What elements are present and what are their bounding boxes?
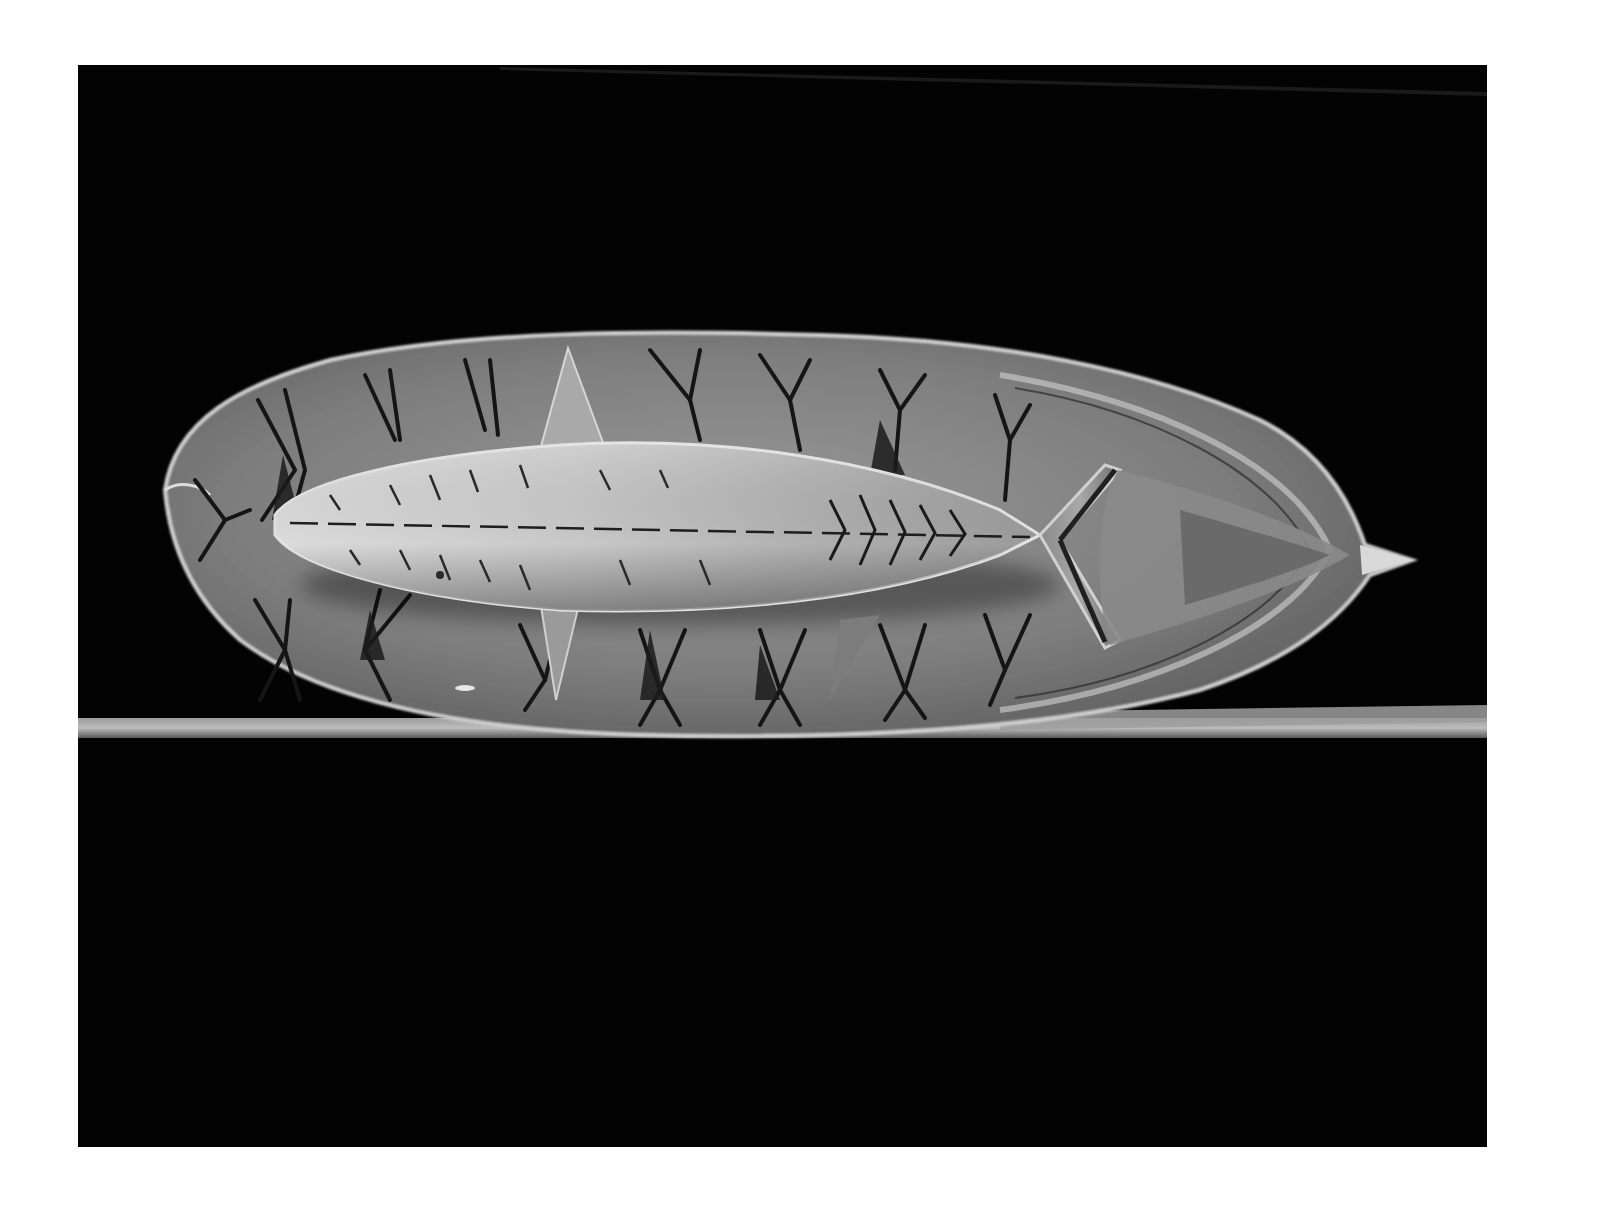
photograph [78,65,1487,1147]
artifact-illustration [78,65,1487,1147]
chip-highlight [455,685,475,691]
photo-frame [0,0,1613,1219]
